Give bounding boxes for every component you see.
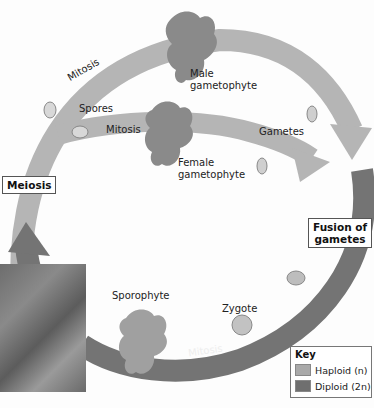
seaweed-photo — [0, 264, 86, 392]
label-spores: Spores — [79, 103, 113, 114]
label-female-gametophyte-2: gametophyte — [178, 169, 245, 180]
meiosis-box: Meiosis — [2, 176, 56, 194]
diploid-swatch — [295, 380, 311, 392]
gamete-icon-female — [257, 158, 267, 174]
zygote-icon — [232, 315, 252, 335]
label-female-gametophyte-1: Female — [178, 157, 214, 168]
label-fusion-2: gametes — [313, 233, 367, 245]
fusion-box: Fusion of gametes — [308, 218, 372, 248]
legend: Key Haploid (n) Diploid (2n) — [290, 346, 372, 398]
label-male-gametophyte-2: gametophyte — [190, 80, 257, 91]
legend-item-diploid: Diploid (2n) — [295, 380, 371, 392]
spore-icon-2 — [72, 126, 88, 138]
gamete-icon-male — [307, 106, 317, 122]
label-sporophyte: Sporophyte — [112, 290, 170, 301]
label-gametes: Gametes — [259, 126, 304, 137]
label-fusion-1: Fusion of — [313, 221, 367, 233]
fusing-gametes-icon — [287, 271, 305, 285]
legend-label-haploid: Haploid (n) — [315, 365, 368, 376]
legend-label-diploid: Diploid (2n) — [315, 381, 371, 392]
label-zygote: Zygote — [222, 303, 257, 314]
life-cycle-diagram: Mitosis Spores Mitosis Male gametophyte … — [0, 0, 374, 408]
label-male-gametophyte-1: Male — [190, 68, 214, 79]
label-meiosis: Meiosis — [7, 179, 51, 191]
legend-title: Key — [295, 349, 316, 360]
spore-icon-1 — [44, 102, 56, 118]
haploid-swatch — [295, 364, 311, 376]
legend-item-haploid: Haploid (n) — [295, 364, 368, 376]
label-mitosis-middle: Mitosis — [106, 124, 141, 135]
arrowhead-male-gametes — [330, 124, 372, 160]
